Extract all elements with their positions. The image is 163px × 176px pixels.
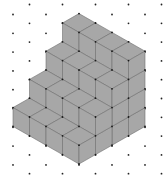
vertex-dot xyxy=(95,60,97,62)
vertex-dot xyxy=(128,97,130,99)
vertex-dot xyxy=(45,107,47,109)
grid-dot xyxy=(161,60,163,62)
vertex-dot xyxy=(111,50,113,52)
grid-dot xyxy=(62,173,64,175)
vertex-dot xyxy=(29,135,31,137)
grid-dot xyxy=(128,173,130,175)
vertex-dot xyxy=(29,116,31,118)
grid-dot xyxy=(144,145,146,147)
vertex-dot xyxy=(144,107,146,109)
grid-dot xyxy=(95,4,97,6)
grid-dot xyxy=(128,4,130,6)
grid-dot xyxy=(29,41,31,43)
grid-dot xyxy=(144,32,146,34)
vertex-dot xyxy=(111,107,113,109)
vertex-dot xyxy=(78,50,80,52)
grid-dot xyxy=(12,14,14,16)
vertex-dot xyxy=(29,79,31,81)
grid-dot xyxy=(12,89,14,91)
vertex-dot xyxy=(111,144,113,146)
vertex-dot xyxy=(62,97,64,99)
grid-dot xyxy=(128,154,130,156)
vertex-dot xyxy=(62,60,64,62)
vertex-dot xyxy=(78,163,80,165)
isometric-diagram xyxy=(0,0,163,176)
grid-dot xyxy=(62,4,64,6)
grid-dot xyxy=(12,51,14,53)
grid-dot xyxy=(12,145,14,147)
grid-dot xyxy=(161,116,163,118)
vertex-dot xyxy=(95,116,97,118)
vertex-dot xyxy=(62,154,64,156)
vertex-dot xyxy=(45,88,47,90)
grid-dot xyxy=(161,154,163,156)
vertex-dot xyxy=(95,97,97,99)
vertex-dot xyxy=(45,126,47,128)
grid-dot xyxy=(161,4,163,6)
vertex-dot xyxy=(95,154,97,156)
grid-dot xyxy=(12,70,14,72)
vertex-dot xyxy=(128,60,130,62)
vertex-dot xyxy=(144,69,146,71)
vertex-dot xyxy=(95,22,97,24)
grid-dot xyxy=(161,41,163,43)
vertex-dot xyxy=(144,50,146,52)
grid-dot xyxy=(161,79,163,81)
vertex-dot xyxy=(78,88,80,90)
grid-dot xyxy=(29,154,31,156)
grid-dot xyxy=(45,32,47,34)
vertex-dot xyxy=(12,107,14,109)
grid-dot xyxy=(111,14,113,16)
vertex-dot xyxy=(62,135,64,137)
vertex-dot xyxy=(128,135,130,137)
vertex-dot xyxy=(62,41,64,43)
grid-dot xyxy=(12,32,14,34)
vertex-dot xyxy=(95,41,97,43)
grid-dot xyxy=(111,164,113,166)
vertex-dot xyxy=(128,79,130,81)
grid-dot xyxy=(161,22,163,24)
vertex-dot xyxy=(78,144,80,146)
grid-dot xyxy=(29,4,31,6)
grid-dot xyxy=(128,22,130,24)
vertex-dot xyxy=(62,79,64,81)
grid-dot xyxy=(29,22,31,24)
vertex-dot xyxy=(62,22,64,24)
vertex-dot xyxy=(78,126,80,128)
vertex-dot xyxy=(111,126,113,128)
vertex-dot xyxy=(45,50,47,52)
vertex-dot xyxy=(45,69,47,71)
vertex-dot xyxy=(78,69,80,71)
vertex-dot xyxy=(95,79,97,81)
vertex-dot xyxy=(78,32,80,34)
grid-dot xyxy=(12,164,14,166)
vertex-dot xyxy=(62,116,64,118)
vertex-dot xyxy=(78,13,80,15)
grid-dot xyxy=(45,164,47,166)
vertex-dot xyxy=(12,126,14,128)
grid-dot xyxy=(29,173,31,175)
vertex-dot xyxy=(128,41,130,43)
grid-dot xyxy=(45,14,47,16)
vertex-dot xyxy=(144,126,146,128)
vertex-dot xyxy=(128,116,130,118)
vertex-dot xyxy=(78,107,80,109)
vertex-dot xyxy=(45,144,47,146)
vertex-dot xyxy=(144,88,146,90)
grid-dot xyxy=(144,14,146,16)
grid-dot xyxy=(161,135,163,137)
grid-dot xyxy=(161,98,163,100)
grid-dot xyxy=(95,173,97,175)
grid-dot xyxy=(161,173,163,175)
grid-dot xyxy=(144,164,146,166)
vertex-dot xyxy=(95,135,97,137)
vertex-dot xyxy=(29,97,31,99)
vertex-dot xyxy=(111,32,113,34)
vertex-dot xyxy=(111,88,113,90)
grid-dot xyxy=(29,60,31,62)
vertex-dot xyxy=(111,69,113,71)
